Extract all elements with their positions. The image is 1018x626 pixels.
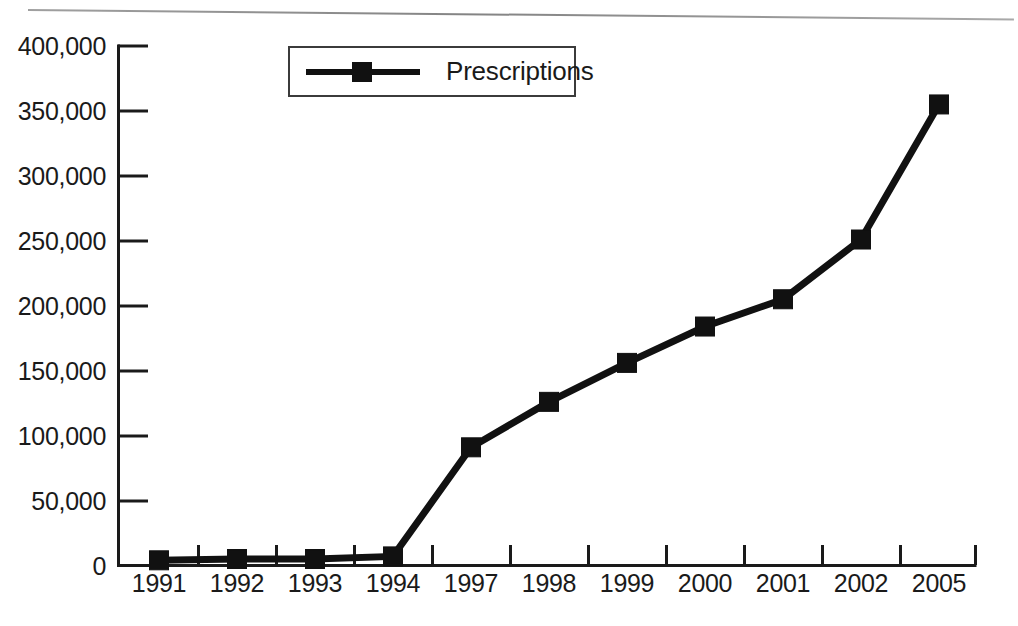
y-tick-label: 400,000 [18, 32, 106, 60]
data-point-marker [540, 392, 559, 411]
data-point-marker [618, 353, 637, 372]
x-tick-label: 1997 [444, 569, 498, 597]
x-tick-label: 2000 [678, 569, 732, 597]
data-point-marker [384, 547, 403, 566]
data-point-marker [852, 230, 871, 249]
data-point-marker [228, 550, 247, 569]
y-tick-label: 350,000 [18, 97, 106, 125]
y-tick-label: 100,000 [18, 422, 106, 450]
x-tick-label: 1998 [522, 569, 576, 597]
x-tick-label: 2002 [834, 569, 888, 597]
x-tick-labels: 1991 1992 1993 1994 1997 1998 1999 2000 … [132, 569, 966, 597]
data-point-marker [930, 95, 949, 114]
y-tick-label: 300,000 [18, 162, 106, 190]
y-tick-marks [118, 46, 148, 501]
x-tick-label: 2005 [912, 569, 966, 597]
x-tick-label: 1999 [600, 569, 654, 597]
data-point-marker [462, 438, 481, 457]
series-line [159, 104, 939, 560]
data-point-marker [774, 290, 793, 309]
series-prescriptions [150, 95, 949, 570]
legend-entry-label: Prescriptions [446, 56, 594, 87]
y-tick-label: 200,000 [18, 292, 106, 320]
chart-legend: Prescriptions [288, 46, 576, 97]
y-tick-labels: 400,000 350,000 300,000 250,000 200,000 … [18, 32, 106, 580]
legend-line-marker-icon [304, 57, 422, 87]
data-point-marker [150, 551, 169, 570]
data-point-marker [696, 317, 715, 336]
x-tick-label: 1992 [210, 569, 264, 597]
data-point-marker [306, 550, 325, 569]
y-tick-label: 150,000 [18, 357, 106, 385]
x-tick-label: 2001 [756, 569, 810, 597]
x-tick-label: 1993 [288, 569, 342, 597]
chart-page: 400,000 350,000 300,000 250,000 200,000 … [0, 0, 1018, 626]
y-tick-label: 50,000 [31, 487, 106, 515]
x-tick-label: 1991 [132, 569, 186, 597]
y-tick-label: 0 [92, 552, 106, 580]
y-tick-label: 250,000 [18, 227, 106, 255]
x-tick-label: 1994 [366, 569, 421, 597]
